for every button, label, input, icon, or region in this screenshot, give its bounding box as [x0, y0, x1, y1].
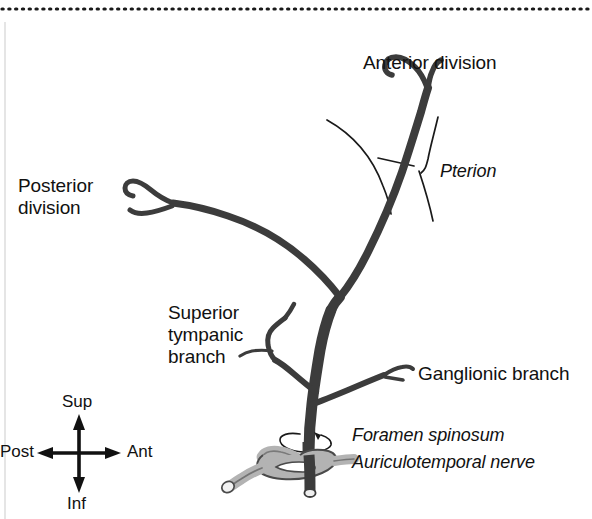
compass-arrow-posterior — [37, 447, 53, 459]
label-ganglionic-branch: Ganglionic branch — [418, 363, 569, 384]
suture-squamosal-upper — [421, 117, 438, 173]
compass-arrow-superior — [73, 414, 85, 430]
anatomy-figure: Anterior division Posterior division Pte… — [0, 0, 592, 519]
artery-cut-end — [304, 489, 315, 497]
compass-label-anterior: Ant — [127, 442, 153, 462]
compass-arrow-inferior — [73, 477, 85, 493]
artery-ganglionic-main — [313, 375, 384, 404]
artery-through-nerve-loop — [309, 455, 310, 492]
label-posterior-division-line1: Posterior — [18, 175, 93, 196]
auriculotemporal-nerve — [220, 442, 354, 497]
artery-posterior-fork-lower — [130, 206, 172, 213]
suture-squamosal-lower — [419, 171, 433, 221]
artery-posterior-fork-upper — [125, 181, 173, 203]
label-superior-tympanic-line1: Superior — [168, 302, 239, 323]
artery-superior-tympanic-ascending — [268, 318, 285, 360]
compass-label-posterior: Post — [0, 442, 34, 462]
label-superior-tympanic-line3: branch — [168, 346, 226, 367]
artery-ganglionic-fork-lower — [385, 377, 403, 380]
artery-posterior-division — [173, 203, 340, 297]
label-posterior-division-line2: division — [18, 197, 81, 218]
artery-superior-tympanic-main — [275, 360, 316, 392]
artery-superior-tympanic-twig — [240, 350, 272, 356]
pterion-suture-lines — [327, 117, 438, 221]
compass-label-superior: Sup — [62, 392, 92, 412]
label-foramen-spinosum: Foramen spinosum — [352, 425, 504, 445]
middle-meningeal-artery — [125, 57, 441, 452]
label-pterion: Pterion — [440, 161, 496, 181]
orientation-compass — [37, 414, 121, 493]
suture-coronal — [327, 120, 391, 214]
label-auriculotemporal-nerve: Auriculotemporal nerve — [352, 452, 535, 472]
foramen-spinosum-arrowhead — [314, 432, 321, 440]
artery-ganglionic-fork-upper — [384, 367, 413, 375]
label-anterior-division: Anterior division — [363, 52, 496, 73]
artery-superior-tympanic-upper — [285, 304, 294, 318]
compass-label-inferior: Inf — [67, 494, 86, 514]
label-superior-tympanic-line2: tympanic — [168, 324, 243, 345]
compass-arrow-anterior — [105, 447, 121, 459]
artery-anterior-division — [340, 88, 428, 297]
artery-main-trunk — [309, 310, 331, 452]
